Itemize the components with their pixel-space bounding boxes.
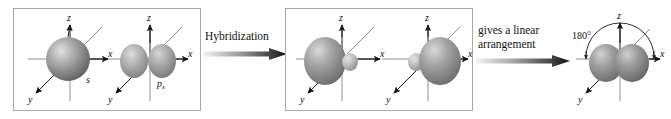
- axis-label-y: y: [577, 94, 583, 105]
- axis-label-y: y: [385, 94, 391, 105]
- orbital-px: z x y px: [100, 9, 196, 109]
- orbital-sp-hybrid-left: z x y: [292, 9, 388, 109]
- orbital-sublabel-x: x: [161, 83, 166, 91]
- diagram-canvas: z x y s: [0, 0, 671, 119]
- orbital-sp-hybrid-right: z x y: [378, 9, 474, 109]
- axis-label-z: z: [66, 12, 71, 23]
- axis-label-x: x: [659, 48, 665, 59]
- axis-label-z: z: [146, 12, 151, 23]
- axis-label-x: x: [467, 48, 473, 59]
- axis-label-y: y: [107, 94, 113, 105]
- arrow-hybridization-label: Hybridization: [205, 30, 287, 44]
- arrow-hybridization: Hybridization: [203, 30, 287, 61]
- axis-label-y: y: [299, 94, 305, 105]
- axis-label-z: z: [338, 12, 343, 23]
- orbital-linear-sp-pair: z x y 180°: [570, 9, 666, 109]
- arrow-linear-arrangement-label: gives a linear arrangement: [478, 24, 572, 51]
- angle-label: 180°: [572, 30, 591, 41]
- axis-label-z: z: [424, 12, 429, 23]
- orbital-label-s: s: [86, 74, 90, 85]
- orbital-label-p: px: [156, 78, 166, 91]
- axis-label-y: y: [27, 94, 33, 105]
- arrow-linear-arrangement: gives a linear arrangement: [476, 24, 572, 68]
- arrow-right-icon: [203, 47, 287, 61]
- axis-label-x: x: [187, 48, 193, 59]
- arrow-right-icon: [476, 54, 570, 68]
- axis-label-z: z: [616, 10, 621, 21]
